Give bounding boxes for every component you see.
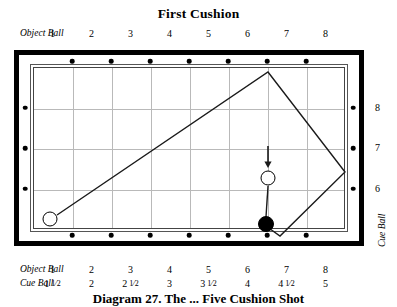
rail-diamond-bottom (226, 233, 231, 238)
bottom-cue-tick-4: 3 (167, 278, 172, 289)
bottom-object-tick-5: 5 (206, 264, 211, 275)
rail-diamond-left (23, 146, 28, 151)
rail-diamond-bottom (70, 233, 75, 238)
bottom-object-tick-3: 3 (128, 264, 133, 275)
direction-arrow-head-icon (264, 162, 271, 169)
right-tick-3: 6 (375, 183, 380, 194)
bottom-object-tick-4: 4 (167, 264, 172, 275)
rail-diamond-top (226, 59, 231, 64)
cushion-path-line (57, 72, 345, 236)
bottom-cue-tick-5: 3 1⁄2 (200, 278, 216, 289)
bottom-object-axis-label: Object Ball (20, 264, 64, 274)
bottom-cue-tick-2: 2 (89, 278, 94, 289)
rail-diamond-left (23, 105, 28, 110)
bottom-cue-tick-7: 4 1⁄2 (278, 278, 294, 289)
bottom-cue-tick-3: 2 1⁄2 (122, 278, 138, 289)
rail-diamond-top (148, 59, 153, 64)
rail-diamond-bottom (187, 233, 192, 238)
rail-diamond-bottom (109, 233, 114, 238)
right-tick-2: 7 (375, 142, 380, 153)
cue-ball (261, 171, 276, 186)
rail-diamond-bottom (148, 233, 153, 238)
rail-diamond-right (351, 146, 356, 151)
bottom-object-tick-6: 6 (245, 264, 250, 275)
bottom-object-tick-7: 7 (284, 264, 289, 275)
aim-line (266, 186, 268, 217)
rail-diamond-top (265, 59, 270, 64)
right-axis-label: Cue Ball (377, 213, 387, 247)
bottom-cue-tick-6: 4 (245, 278, 250, 289)
bottom-cue-tick-8: 5 (323, 278, 328, 289)
rail-diamond-bottom (265, 233, 270, 238)
rail-diamond-top (70, 59, 75, 64)
figure-caption: Diagram 27. The ... Five Cushion Shot (0, 291, 397, 307)
rail-diamond-right (351, 105, 356, 110)
bottom-object-axis: Object Ball 12345678 (0, 264, 397, 276)
bottom-object-tick-2: 2 (89, 264, 94, 275)
rail-diamond-bottom (304, 233, 309, 238)
bottom-object-tick-8: 8 (323, 264, 328, 275)
bottom-object-tick-1: 1 (50, 264, 55, 275)
object-ball (258, 216, 274, 232)
rail-diamond-top (109, 59, 114, 64)
right-tick-1: 8 (375, 102, 380, 113)
bottom-cue-axis: Cue Ball 1 1⁄222 1⁄233 1⁄244 1⁄25 (0, 278, 397, 290)
rail-diamond-top (304, 59, 309, 64)
cue-ball (43, 212, 58, 227)
rail-diamond-right (351, 186, 356, 191)
bottom-cue-tick-1: 1 1⁄2 (44, 278, 60, 289)
rail-diamond-left (23, 186, 28, 191)
rail-diamond-top (187, 59, 192, 64)
